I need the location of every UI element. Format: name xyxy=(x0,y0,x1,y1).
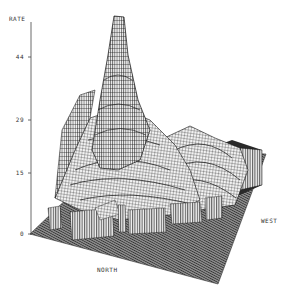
z-tick-44: 44 xyxy=(10,53,24,60)
z-axis xyxy=(28,22,31,235)
west-axis-label: WEST xyxy=(261,217,277,224)
z-tick-15: 15 xyxy=(10,169,24,176)
surface-plot xyxy=(0,0,301,291)
main-peak xyxy=(92,16,150,170)
z-tick-0: 0 xyxy=(10,230,24,237)
z-axis-label: RATE xyxy=(9,15,25,22)
z-tick-29: 29 xyxy=(10,116,24,123)
north-axis-label: NORTH xyxy=(97,266,118,273)
